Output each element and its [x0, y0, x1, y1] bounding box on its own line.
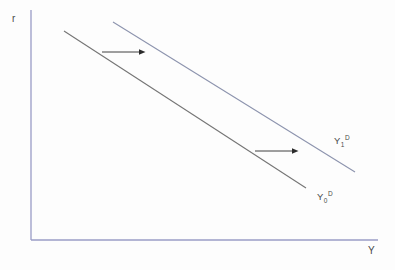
shifted-demand-label-subscript: 1	[341, 141, 345, 148]
x-axis-label: Y	[368, 245, 375, 257]
shifted-demand-label: Y1D	[334, 131, 350, 152]
shifted-demand-label-base: Y	[334, 135, 341, 146]
demand-shift-diagram: r Y Y1D Y0D	[0, 0, 395, 270]
shifted-demand-label-superscript: D	[345, 134, 350, 141]
initial-demand-curve	[64, 31, 306, 188]
initial-demand-label-base: Y	[317, 191, 324, 202]
shifted-demand-curve	[113, 22, 355, 172]
y-axis-label: r	[12, 13, 15, 25]
initial-demand-label: Y0D	[317, 187, 333, 208]
initial-demand-label-subscript: 0	[324, 197, 328, 204]
initial-demand-label-superscript: D	[328, 190, 333, 197]
